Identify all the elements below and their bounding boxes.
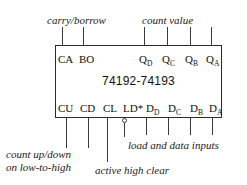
- pin-label-qa: QA: [206, 54, 219, 65]
- pin-name-db: D: [190, 102, 198, 114]
- leader-line-qb: [190, 27, 191, 45]
- annotation-count-value: count value: [142, 14, 193, 26]
- annotation-count-updown: count up/down on low-to-high: [6, 148, 71, 174]
- pin-name-ld: LD*: [123, 102, 143, 114]
- annotation-count-updown-line2: on low-to-high: [6, 161, 71, 174]
- leader-line-dd: [146, 118, 147, 135]
- leader-line-db: [190, 118, 191, 135]
- pin-label-bo: BO: [79, 54, 94, 65]
- annotation-active-high-clear: active high clear: [95, 164, 169, 176]
- pin-subscript-qb: B: [193, 59, 198, 68]
- pin-name-cl: CL: [103, 102, 117, 114]
- pin-name-da: D: [209, 102, 217, 114]
- pin-name-dc: D: [168, 102, 176, 114]
- pin-name-qd: Q: [139, 53, 147, 65]
- leader-line-cl: [107, 118, 108, 162]
- pin-name-qc: Q: [162, 53, 170, 65]
- pin-subscript-qd: D: [147, 59, 152, 68]
- pin-name-cu: CU: [58, 102, 73, 114]
- pin-label-qb: QB: [185, 54, 198, 65]
- pin-label-ld: LD*: [123, 103, 143, 114]
- pin-subscript-dc: C: [176, 108, 181, 117]
- ic-pinout-diagram: carry/borrow count value 74192-74193 CA …: [0, 0, 247, 185]
- leader-line-qc: [167, 27, 168, 45]
- leader-line-da: [212, 118, 213, 135]
- pin-label-dc: DC: [168, 103, 181, 114]
- pin-label-qd: QD: [139, 54, 152, 65]
- pin-name-cd: CD: [80, 102, 95, 114]
- pin-name-qb: Q: [185, 53, 193, 65]
- pin-subscript-dd: D: [154, 108, 159, 117]
- pin-name-ca: CA: [58, 53, 73, 65]
- pin-label-da: DA: [209, 103, 222, 114]
- pin-label-cl: CL: [103, 103, 117, 114]
- pin-subscript-qa: A: [214, 59, 219, 68]
- pin-name-bo: BO: [79, 53, 94, 65]
- pin-subscript-qc: C: [170, 59, 175, 68]
- pin-label-db: DB: [190, 103, 203, 114]
- annotation-carry-borrow: carry/borrow: [47, 14, 106, 26]
- leader-line-ld: [124, 123, 125, 137]
- pin-label-dd: DD: [146, 103, 159, 114]
- pin-label-qc: QC: [162, 54, 175, 65]
- annotation-load-and-data-inputs: load and data inputs: [128, 139, 219, 151]
- pin-label-cu: CU: [58, 103, 73, 114]
- chip-part-number: 74192-74193: [55, 74, 222, 88]
- leader-line-cu: [66, 118, 67, 148]
- leader-line-dc: [168, 118, 169, 135]
- leader-line-qd: [144, 27, 145, 45]
- leader-line-qa: [211, 27, 212, 45]
- pin-subscript-db: B: [198, 108, 203, 117]
- pin-name-qa: Q: [206, 53, 214, 65]
- pin-label-cd: CD: [80, 103, 95, 114]
- annotation-count-updown-line1: count up/down: [6, 148, 71, 161]
- pin-subscript-da: A: [217, 108, 222, 117]
- leader-line-bo: [83, 27, 84, 45]
- pin-label-ca: CA: [58, 54, 73, 65]
- leader-line-ca: [62, 27, 63, 45]
- leader-line-cd: [88, 118, 89, 148]
- pin-name-dd: D: [146, 102, 154, 114]
